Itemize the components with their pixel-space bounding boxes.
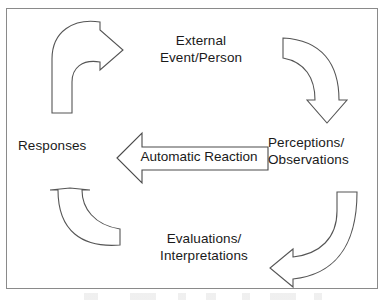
bottom-scan-artifact — [66, 293, 328, 300]
diagram-figure: External Event/Person Perceptions/ Obser… — [0, 0, 387, 302]
node-label-external: External Event/Person — [124, 33, 278, 66]
node-label-evaluations-line1: Evaluations/ — [126, 231, 282, 248]
node-label-external-line2: Event/Person — [124, 50, 278, 67]
arrow-evaluations-to-responses — [50, 188, 120, 245]
node-label-responses-line1: Responses — [18, 138, 122, 155]
node-label-perceptions-line1: Perceptions/ — [268, 135, 386, 152]
node-label-perceptions-line2: Observations — [268, 152, 386, 169]
node-label-external-line1: External — [124, 33, 278, 50]
node-label-evaluations: Evaluations/ Interpretations — [126, 231, 282, 264]
node-label-perceptions: Perceptions/ Observations — [268, 135, 386, 168]
arrow-perceptions-to-evaluations — [270, 192, 357, 287]
arrow-external-to-perceptions — [283, 38, 347, 123]
node-label-responses: Responses — [18, 138, 122, 155]
node-label-evaluations-line2: Interpretations — [126, 248, 282, 265]
automatic-reaction-label: Automatic Reaction — [133, 149, 265, 165]
arrow-responses-to-external — [52, 21, 123, 113]
